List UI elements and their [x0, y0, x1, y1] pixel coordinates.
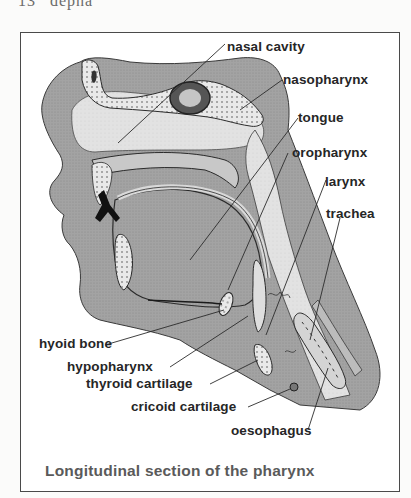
label-hypopharynx: hypopharynx	[67, 360, 153, 374]
label-hyoid-bone: hyoid bone	[39, 337, 112, 351]
label-larynx: larynx	[325, 175, 365, 189]
label-trachea: trachea	[326, 207, 375, 221]
label-nasal-cavity: nasal cavity	[227, 40, 305, 54]
figure-caption: Longitudinal section of the pharynx	[45, 462, 315, 480]
label-nasopharynx: nasopharynx	[283, 73, 368, 87]
label-thyroid-cartilage: thyroid cartilage	[86, 377, 193, 391]
label-oropharynx: oropharynx	[292, 146, 367, 160]
cricoid-cartilage-shape	[290, 383, 298, 391]
label-oesophagus: oesophagus	[231, 424, 312, 438]
label-cricoid-cartilage: cricoid cartilage	[131, 400, 236, 414]
label-tongue: tongue	[298, 111, 344, 125]
